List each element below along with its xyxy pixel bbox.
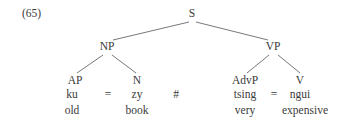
- leaf-form-tsing: tsing: [234, 89, 256, 101]
- tree-node-s: S: [189, 8, 195, 20]
- branch-np-ap: [77, 55, 103, 73]
- word-boundary-marker: #: [173, 89, 179, 101]
- syntax-tree-figure: (65) S NP VP AP N AdvP V ku = zy # tsing…: [0, 0, 357, 127]
- tree-node-v: V: [296, 75, 304, 87]
- leaf-form-ku: ku: [66, 89, 78, 101]
- leaf-gloss-old: old: [65, 105, 80, 117]
- tree-node-vp: VP: [266, 41, 281, 53]
- branch-vp-advp: [247, 55, 269, 73]
- branch-np-n: [112, 55, 136, 73]
- branch-s-np: [113, 22, 189, 40]
- leaf-gloss-very: very: [235, 105, 255, 117]
- tree-node-ap: AP: [68, 75, 83, 87]
- branch-s-vp: [196, 22, 268, 40]
- leaf-gloss-book: book: [126, 105, 149, 117]
- tree-node-advp: AdvP: [232, 75, 258, 87]
- branch-vp-v: [278, 55, 300, 73]
- clitic-marker-left: =: [105, 89, 112, 101]
- leaf-form-zy: zy: [132, 89, 143, 101]
- tree-node-n: N: [133, 75, 141, 87]
- tree-node-np: NP: [100, 41, 115, 53]
- leaf-form-ngui: ngui: [290, 89, 310, 101]
- clitic-marker-right: =: [271, 89, 278, 101]
- leaf-gloss-expensive: expensive: [282, 105, 328, 117]
- example-number: (65): [22, 8, 41, 20]
